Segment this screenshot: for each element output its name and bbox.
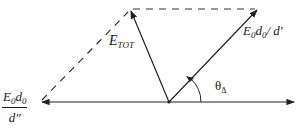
vector-diagram <box>0 0 304 128</box>
fraction-denominator: d″ <box>2 108 27 124</box>
angle-arc <box>191 79 201 102</box>
origin-point <box>167 100 170 103</box>
vector-e-tot <box>131 11 169 102</box>
label-theta-delta: θΔ <box>215 78 226 95</box>
fraction-numerator: E0d0 <box>2 90 27 108</box>
dashed-line-left <box>42 12 128 100</box>
label-e0d0-over-ddprime: E0d0 d″ <box>2 90 27 124</box>
label-e0d0-over-dprime: E0d0/ d′ <box>243 24 283 40</box>
label-e-tot: ETOT <box>109 34 134 50</box>
